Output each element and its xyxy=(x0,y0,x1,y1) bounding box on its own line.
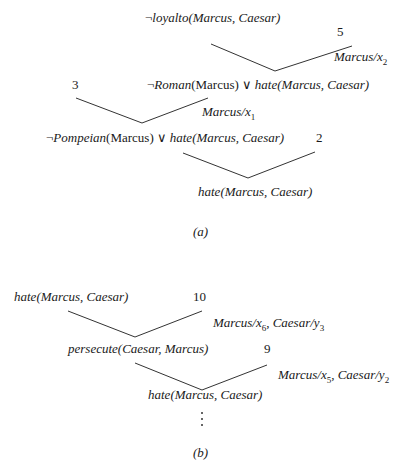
term: Marcus xyxy=(202,104,241,119)
edge-a2 xyxy=(76,98,208,123)
clause-hate-goal: hate(Marcus, Caesar) xyxy=(14,290,128,304)
arguments: (Marcus, Caesar) xyxy=(192,130,284,145)
substitution-x1: Marcus/x1 xyxy=(202,105,255,124)
predicate: hate xyxy=(170,130,192,145)
edge-b1 xyxy=(68,311,202,337)
clause-number-3: 3 xyxy=(72,78,79,92)
predicate: Roman xyxy=(154,77,191,92)
edge-a3 xyxy=(183,152,315,178)
or-symbol: ∨ xyxy=(154,130,170,145)
term: Marcus xyxy=(334,49,373,64)
predicate: hate xyxy=(255,77,277,92)
substitution-x6-y3: Marcus/x6, Caesar/y3 xyxy=(213,316,324,335)
substitution-x2: Marcus/x2 xyxy=(334,50,387,69)
predicate: Pompeian xyxy=(53,130,106,145)
clause-number-10: 10 xyxy=(193,290,206,304)
arguments: (Marcus, Caesar) xyxy=(220,184,312,199)
arguments: (Marcus, Caesar) xyxy=(36,289,128,304)
predicate: persecute xyxy=(68,341,118,356)
term: Caesar xyxy=(338,367,376,382)
clause-number-2: 2 xyxy=(316,131,323,145)
arguments: (Marcus) xyxy=(191,77,239,92)
clause-not-loyalto: ¬loyalto(Marcus, Caesar) xyxy=(145,11,280,25)
substitution-x5-y2: Marcus/x5, Caesar/y2 xyxy=(278,368,389,387)
arguments: (Marcus) xyxy=(106,130,154,145)
or-symbol: ∨ xyxy=(239,77,255,92)
subscript: 2 xyxy=(383,57,388,67)
arguments: (Marcus, Caesar) xyxy=(188,10,280,25)
clause-number-9: 9 xyxy=(264,342,271,356)
arguments: (Marcus, Caesar) xyxy=(277,77,369,92)
arguments: (Caesar, Marcus) xyxy=(118,341,209,356)
predicate: hate xyxy=(14,289,36,304)
caption-b: (b) xyxy=(193,446,208,460)
clause-persecute: persecute(Caesar, Marcus) xyxy=(68,342,208,356)
term: Marcus xyxy=(278,367,317,382)
subscript: 1 xyxy=(251,112,256,122)
caption-a: (a) xyxy=(193,225,208,239)
predicate: loyalto xyxy=(152,10,188,25)
term: Marcus xyxy=(213,315,252,330)
clause-number-5: 5 xyxy=(337,25,344,39)
subscript: 2 xyxy=(385,375,390,385)
clause-not-pompeian-or-hate: ¬Pompeian(Marcus) ∨ hate(Marcus, Caesar) xyxy=(46,131,284,145)
edge-b2 xyxy=(135,363,267,390)
predicate: hate xyxy=(148,387,170,402)
clause-hate-result-b: hate(Marcus, Caesar) xyxy=(148,388,262,402)
arguments: (Marcus, Caesar) xyxy=(170,387,262,402)
predicate: hate xyxy=(198,184,220,199)
clause-hate-result-a: hate(Marcus, Caesar) xyxy=(198,185,312,199)
edge-a1 xyxy=(211,44,352,71)
vertical-ellipsis-icon xyxy=(200,412,204,430)
subscript: 3 xyxy=(320,323,325,333)
term: Caesar xyxy=(273,315,311,330)
clause-not-roman-or-hate: ¬Roman(Marcus) ∨ hate(Marcus, Caesar) xyxy=(147,78,369,92)
